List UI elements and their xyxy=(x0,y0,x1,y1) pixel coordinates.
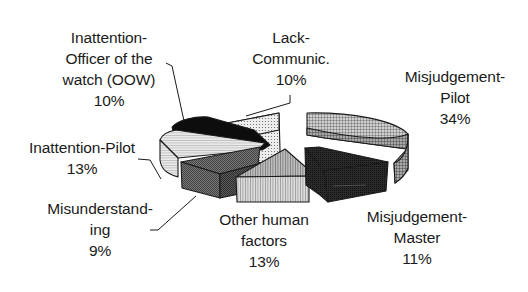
label-text: factors xyxy=(208,230,320,251)
label-text: Officer of the xyxy=(52,48,166,69)
label-text: Misunderstand- xyxy=(36,198,164,219)
label-inattention-pilot: Inattention-Pilot 13% xyxy=(14,137,150,179)
slice-misjudgement-master xyxy=(305,147,388,202)
label-text: Other human xyxy=(208,209,320,230)
label-other-human-factors: Other human factors 13% xyxy=(208,209,320,272)
label-text: Lack- xyxy=(243,27,339,48)
label-text: Master xyxy=(356,227,478,248)
label-value: 9% xyxy=(36,240,164,261)
label-inattention-oow: Inattention- Officer of the watch (OOW) … xyxy=(52,27,166,111)
label-value: 11% xyxy=(356,248,478,269)
label-lack-communic: Lack- Communic. 10% xyxy=(243,27,339,90)
label-text: Pilot xyxy=(394,87,516,108)
label-value: 13% xyxy=(208,251,320,272)
label-text: Inattention- xyxy=(52,27,166,48)
label-value: 34% xyxy=(394,108,516,129)
leader-lack xyxy=(246,95,290,116)
label-misunderstanding: Misunderstand- ing 9% xyxy=(36,198,164,261)
label-text: Misjudgement- xyxy=(394,66,516,87)
label-value: 10% xyxy=(52,90,166,111)
label-value: 10% xyxy=(243,69,339,90)
leader-oow xyxy=(166,63,184,121)
label-text: Misjudgement- xyxy=(356,206,478,227)
label-value: 13% xyxy=(14,158,150,179)
label-text: watch (OOW) xyxy=(52,69,166,90)
label-misjudgement-master: Misjudgement- Master 11% xyxy=(356,206,478,269)
label-misjudgement-pilot: Misjudgement- Pilot 34% xyxy=(394,66,516,129)
label-text: Inattention-Pilot xyxy=(14,137,150,158)
label-text: ing xyxy=(36,219,164,240)
label-text: Communic. xyxy=(243,48,339,69)
